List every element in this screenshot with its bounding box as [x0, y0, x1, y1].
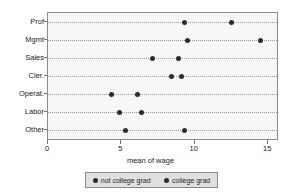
x-axis-tick-label: 10 — [190, 144, 198, 153]
y-axis-label-operat: Operat. — [19, 89, 44, 98]
legend: not college grad college grad — [85, 172, 218, 188]
gridline — [48, 112, 277, 113]
x-axis-tick-label: 5 — [118, 144, 122, 153]
gridline — [48, 76, 277, 77]
data-point — [135, 92, 140, 97]
y-axis-label-prof: Prof — [30, 17, 44, 26]
y-axis-label-mgmt: Mgmt — [25, 35, 44, 44]
data-point — [139, 110, 144, 115]
data-point — [182, 20, 187, 25]
dot-plot-figure: ProfMgmtSalesCler.Operat.LaborOther 0510… — [0, 0, 301, 195]
data-point — [176, 56, 181, 61]
y-axis: ProfMgmtSalesCler.Operat.LaborOther — [0, 12, 44, 140]
legend-label-college-grad: college grad — [172, 177, 210, 184]
gridline — [48, 94, 277, 95]
legend-label-not-college-grad: not college grad — [101, 177, 151, 184]
data-point — [169, 74, 174, 79]
data-point — [179, 74, 184, 79]
x-axis-tick-label: 0 — [45, 144, 49, 153]
legend-entry-1: college grad — [164, 177, 210, 184]
gridline — [48, 22, 277, 23]
data-point — [109, 92, 114, 97]
y-axis-label-other: Other — [25, 125, 44, 134]
y-axis-label-sales: Sales — [25, 53, 44, 62]
data-point — [150, 56, 155, 61]
data-point — [182, 128, 187, 133]
plot-panel — [47, 12, 278, 140]
data-point — [117, 110, 122, 115]
legend-marker-college-grad — [164, 178, 169, 183]
gridline — [48, 40, 277, 41]
legend-marker-not-college-grad — [93, 178, 98, 183]
data-point — [229, 20, 234, 25]
data-point — [185, 38, 190, 43]
gridline — [48, 130, 277, 131]
y-axis-label-labor: Labor — [25, 107, 44, 116]
y-axis-label-cler: Cler. — [29, 71, 44, 80]
x-axis-title: mean of wage — [0, 156, 301, 165]
legend-entry-0: not college grad — [93, 177, 151, 184]
data-point — [258, 38, 263, 43]
x-axis-tick-label: 15 — [263, 144, 271, 153]
data-point — [123, 128, 128, 133]
gridline — [48, 58, 277, 59]
